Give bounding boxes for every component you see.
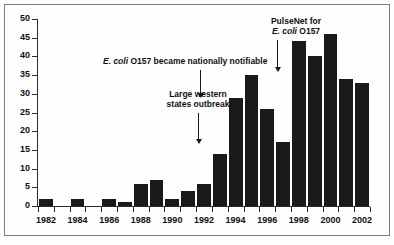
x-axis-tick — [275, 207, 276, 212]
annotation-notifiable-rest: O157 became nationally notifiable — [128, 56, 267, 66]
y-axis-tick-label: 35 — [4, 70, 30, 79]
y-axis-tick-label: 30 — [4, 89, 30, 98]
annotation-pulsenet-rest: O157 — [297, 26, 320, 36]
bar — [38, 199, 54, 206]
bar — [338, 79, 354, 206]
bar-series — [38, 19, 370, 206]
bar — [275, 142, 291, 206]
x-axis-tick — [244, 207, 245, 212]
bar — [149, 180, 165, 206]
x-axis-tick — [38, 207, 39, 212]
bar — [259, 109, 275, 206]
bar — [323, 34, 339, 206]
y-axis-tick-label: 5 — [4, 182, 30, 191]
bar — [228, 98, 244, 206]
y-axis-tick-label: 45 — [4, 33, 30, 42]
bar — [133, 184, 149, 206]
x-axis-tick — [117, 207, 118, 212]
y-axis-tick-labels: 05101520253035404550 — [2, 0, 30, 245]
x-axis-tick-label: 2002 — [342, 215, 382, 225]
x-axis-tick — [101, 207, 102, 212]
x-axis-tick — [307, 207, 308, 212]
bar — [212, 154, 228, 206]
x-axis-tick — [212, 207, 213, 212]
annotation-pulsenet: PulseNet for E. coli O157 — [255, 16, 337, 36]
annotation-notifiable: E. coli O157 became nationally notifiabl… — [103, 56, 267, 66]
y-axis-tick-label: 50 — [4, 14, 30, 23]
bar — [354, 83, 370, 206]
annotation-notifiable-italic: E. coli — [103, 56, 128, 66]
bar — [307, 56, 323, 206]
y-axis-tick-label: 25 — [4, 108, 30, 117]
x-axis-tick — [338, 207, 339, 212]
y-axis-tick-label: 20 — [4, 126, 30, 135]
bar — [70, 199, 86, 206]
x-axis-tick — [133, 207, 134, 212]
x-axis-tick — [354, 207, 355, 212]
annotation-pulsenet-arrow — [277, 40, 278, 68]
bar — [101, 199, 117, 206]
x-axis-tick — [149, 207, 150, 212]
bar — [196, 184, 212, 206]
annotation-pulsenet-line2: E. coli O157 — [255, 26, 337, 36]
chart-figure: 05101520253035404550 1982198419861988199… — [0, 0, 394, 245]
y-axis-tick-label: 40 — [4, 51, 30, 60]
x-axis-tick — [259, 207, 260, 212]
x-axis-tick — [70, 207, 71, 212]
x-axis-tick — [164, 207, 165, 212]
x-axis-tick — [323, 207, 324, 212]
x-axis-tick — [85, 207, 86, 212]
x-axis-tick — [370, 207, 371, 212]
annotation-pulsenet-line1: PulseNet for — [255, 16, 337, 26]
annotation-western-outbreak: Large western states outbreak — [160, 89, 236, 109]
annotation-pulsenet-italic: E. coli — [272, 26, 297, 36]
y-axis-tick-label: 0 — [4, 201, 30, 210]
bar — [117, 202, 133, 206]
x-axis-tick — [180, 207, 181, 212]
annotation-western-line1: Large western — [160, 89, 236, 99]
y-axis-tick-label: 10 — [4, 164, 30, 173]
x-axis-tick — [291, 207, 292, 212]
x-axis-line — [37, 206, 370, 207]
y-axis-tick-label: 15 — [4, 145, 30, 154]
x-axis-tick — [54, 207, 55, 212]
bar — [180, 191, 196, 206]
annotation-western-line2: states outbreak — [160, 99, 236, 109]
x-axis-tick — [228, 207, 229, 212]
bar — [244, 75, 260, 206]
bar — [164, 199, 180, 206]
annotation-western-arrow — [198, 113, 199, 140]
x-axis-tick — [196, 207, 197, 212]
bar — [291, 41, 307, 206]
